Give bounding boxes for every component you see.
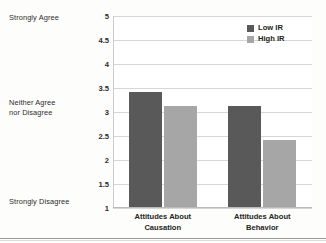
y-axis-tick-labels: 11.522.533.544.55	[80, 16, 109, 208]
footer-rule-light	[0, 240, 326, 241]
y-axis-tick-label: 4	[81, 60, 109, 69]
bar-high-ir-group-1[interactable]	[164, 106, 197, 207]
y-axis-tick-label: 2.5	[81, 132, 109, 141]
scale-anchor-neither: Neither Agree nor Disagree	[9, 98, 56, 117]
y-axis-tick-label: 4.5	[81, 36, 109, 45]
x-axis-category-label: Attitudes About Causation	[113, 211, 213, 233]
x-axis-line	[113, 207, 312, 208]
bar-chart-figure: Strongly Agree Neither Agree nor Disagre…	[0, 0, 326, 243]
y-axis-tick-label: 3	[81, 108, 109, 117]
bar-series-group	[113, 16, 312, 207]
bar-low-ir-group-2[interactable]	[228, 106, 261, 207]
gridline	[113, 208, 312, 209]
y-axis-tick-label: 3.5	[81, 84, 109, 93]
legend: Low IR High IR	[247, 24, 285, 43]
legend-label-high-ir: High IR	[258, 35, 285, 43]
y-axis-tick-label: 5	[81, 12, 109, 21]
y-axis-tick-label: 1.5	[81, 180, 109, 189]
x-axis-category-label: Attitudes About Behavior	[213, 211, 313, 233]
legend-swatch-icon-low-ir	[247, 25, 254, 32]
x-axis-category-labels: Attitudes About CausationAttitudes About…	[113, 211, 312, 237]
legend-item-low-ir[interactable]: Low IR	[247, 24, 285, 32]
legend-label-low-ir: Low IR	[258, 24, 283, 32]
legend-item-high-ir[interactable]: High IR	[247, 35, 285, 43]
legend-swatch-icon-high-ir	[247, 36, 254, 43]
scale-anchor-strongly-agree: Strongly Agree	[9, 13, 59, 23]
y-axis-tick-label: 1	[81, 204, 109, 213]
scale-anchor-strongly-disagree: Strongly Disagree	[9, 197, 69, 207]
footer-rule	[0, 238, 326, 239]
bar-high-ir-group-2[interactable]	[263, 140, 296, 207]
plot-area	[113, 16, 312, 208]
y-axis-tick-label: 2	[81, 156, 109, 165]
bar-low-ir-group-1[interactable]	[129, 92, 162, 207]
